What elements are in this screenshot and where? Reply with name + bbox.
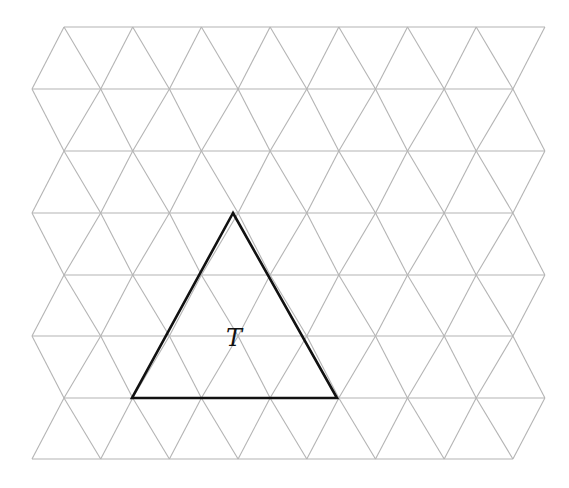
grid-line [101, 336, 133, 398]
grid-line [169, 398, 201, 459]
grid-line [376, 275, 408, 336]
grid-line [408, 213, 445, 275]
grid-line [270, 336, 307, 398]
grid-line [101, 213, 133, 275]
grid-line [376, 89, 408, 151]
grid-line [444, 27, 476, 89]
grid-line [476, 213, 513, 275]
grid-line [133, 89, 170, 151]
grid-line [476, 398, 513, 459]
grid-line [101, 398, 133, 459]
grid-line [32, 151, 64, 213]
grid-line [101, 27, 133, 89]
grid-line [408, 336, 445, 398]
grid-line [32, 336, 64, 398]
grid-line [376, 151, 408, 213]
grid-line [270, 151, 307, 213]
grid-line [133, 213, 170, 275]
grid-line [270, 89, 307, 151]
grid-line [513, 336, 545, 398]
grid-line [32, 275, 64, 336]
grid-line [238, 27, 270, 89]
grid-line [238, 336, 270, 398]
grid-line [238, 398, 270, 459]
grid-line [32, 27, 64, 89]
grid-line [64, 151, 101, 213]
grid-line [64, 27, 101, 89]
grid-line [476, 89, 513, 151]
grid-line [339, 213, 376, 275]
grid-line [270, 213, 307, 275]
grid-line [408, 398, 445, 459]
grid-line [201, 151, 238, 213]
grid-line [339, 336, 376, 398]
grid-line [307, 398, 339, 459]
grid-line [64, 213, 101, 275]
grid-line [513, 27, 545, 89]
grid-line [444, 275, 476, 336]
grid-line [307, 213, 339, 275]
grid-line [307, 275, 339, 336]
grid-line [476, 27, 513, 89]
grid-line [339, 27, 376, 89]
grid-line [307, 336, 339, 398]
grid-line [408, 275, 445, 336]
grid-line [169, 151, 201, 213]
grid-line [238, 213, 270, 275]
grid-line [444, 89, 476, 151]
grid-line [101, 275, 133, 336]
grid-line [270, 27, 307, 89]
grid-line [133, 151, 170, 213]
triangular-grid [32, 27, 545, 459]
grid-line [444, 151, 476, 213]
grid-line [307, 151, 339, 213]
grid-line [513, 89, 545, 151]
grid-line [32, 213, 64, 275]
grid-line [270, 398, 307, 459]
grid-line [476, 336, 513, 398]
grid-line [169, 336, 201, 398]
grid-line [238, 275, 270, 336]
grid-line [376, 27, 408, 89]
triangle-T [132, 213, 337, 398]
grid-line [270, 275, 307, 336]
grid-line [238, 151, 270, 213]
grid-line [169, 275, 201, 336]
grid-line [238, 89, 270, 151]
grid-line [376, 336, 408, 398]
grid-line [169, 27, 201, 89]
triangular-grid-diagram: T [0, 0, 569, 488]
grid-line [408, 151, 445, 213]
grid-line [169, 213, 201, 275]
grid-line [444, 398, 476, 459]
grid-line [339, 275, 376, 336]
grid-line [64, 89, 101, 151]
grid-line [133, 27, 170, 89]
grid-line [133, 275, 170, 336]
grid-line [513, 275, 545, 336]
triangle-label: T [226, 324, 244, 352]
grid-line [513, 398, 545, 459]
grid-line [476, 151, 513, 213]
grid-line [513, 151, 545, 213]
grid-line [201, 27, 238, 89]
grid-line [307, 27, 339, 89]
grid-line [32, 398, 64, 459]
grid-line [476, 275, 513, 336]
grid-line [444, 336, 476, 398]
grid-line [444, 213, 476, 275]
grid-line [339, 89, 376, 151]
grid-line [169, 89, 201, 151]
grid-line [376, 213, 408, 275]
grid-line [201, 89, 238, 151]
grid-line [201, 398, 238, 459]
grid-line [339, 398, 376, 459]
grid-line [376, 398, 408, 459]
grid-line [64, 336, 101, 398]
grid-line [64, 398, 101, 459]
grid-line [32, 89, 64, 151]
grid-line [408, 27, 445, 89]
grid-line [339, 151, 376, 213]
grid-line [133, 398, 170, 459]
grid-line [64, 275, 101, 336]
